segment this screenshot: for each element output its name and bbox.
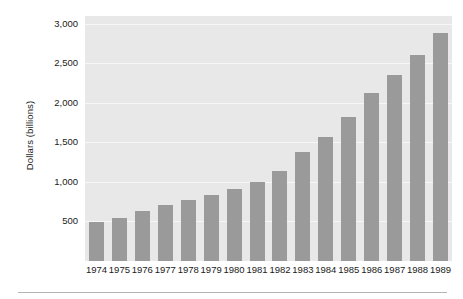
bar	[295, 152, 310, 261]
y-axis-tick-label: 3,000	[22, 19, 78, 29]
y-axis-tick-label: 2,500	[22, 58, 78, 68]
bar-chart-figure: Dollars (billions) 5001,0001,5002,0002,5…	[0, 0, 463, 299]
bar	[89, 222, 104, 261]
bar	[341, 117, 356, 261]
bar	[387, 75, 402, 261]
x-axis-tick-label: 1989	[424, 264, 458, 275]
bar	[227, 189, 242, 261]
y-axis-tick-label: 1,500	[22, 137, 78, 147]
y-axis-tick-label: 500	[22, 216, 78, 226]
plot-area	[85, 16, 452, 261]
bar	[318, 137, 333, 261]
x-axis-tick-labels: 1974197519761977197819791980198119821983…	[85, 264, 452, 278]
bar	[364, 93, 379, 261]
bar	[181, 200, 196, 261]
bar	[272, 171, 287, 261]
bottom-divider-rule	[18, 292, 447, 293]
bar	[135, 211, 150, 261]
y-axis-tick-label: 2,000	[22, 98, 78, 108]
bar	[158, 205, 173, 261]
y-axis-tick-labels: 5001,0001,5002,0002,5003,000	[22, 0, 78, 299]
bar	[433, 33, 448, 261]
bar	[250, 182, 265, 261]
bar	[204, 195, 219, 261]
y-axis-tick-label: 1,000	[22, 177, 78, 187]
bar	[112, 218, 127, 261]
bar	[410, 55, 425, 261]
bar-series	[85, 16, 452, 261]
